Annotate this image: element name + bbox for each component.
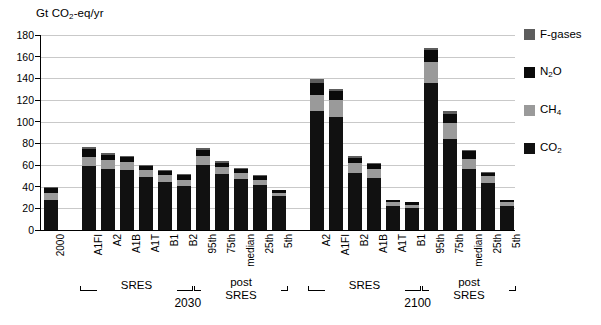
y-tick-label: 20 [10,202,34,214]
bar-segment-co2 [424,83,439,230]
bar-segment-co2 [196,165,211,230]
bar-sres-2100-b1[interactable] [405,202,420,230]
x-axis-label-2000: 2000 [55,234,66,256]
bracket-label-line: post [431,276,507,289]
x-axis-label-median: median [473,234,484,267]
legend-item-fgas[interactable]: F-gases [524,28,601,40]
y-tick-label: 180 [10,29,34,41]
bar-segment-co2 [139,177,154,230]
bar-segment-ch4 [348,163,363,173]
bar-post-sres-2100-75th[interactable] [443,111,458,230]
x-axis-label-25th: 25th [264,234,275,253]
x-axis-label-95th: 95th [435,234,446,253]
x-axis-label-a2: A2 [321,234,332,246]
bar-segment-ch4 [196,156,211,165]
y-tick-label: 80 [10,137,34,149]
bar-segment-n2o [82,149,97,157]
bar-sres-2100-a1t[interactable] [386,200,401,230]
bar-sres-2030-b2[interactable] [177,174,192,230]
bar-post-sres-2030-median[interactable] [234,168,249,230]
bar-sres-2030-a1b[interactable] [120,156,135,230]
bar-segment-co2 [500,206,515,230]
bar-segment-n2o [424,50,439,62]
bar-segment-co2 [44,200,59,230]
bar-segment-ch4 [481,176,496,183]
bar-sres-2030-a2[interactable] [101,153,116,230]
bar-segment-co2 [253,185,268,230]
x-axis-label-a1b: A1B [378,234,389,253]
y-tick-label: 40 [10,181,34,193]
x-axis-label-95th: 95th [207,234,218,253]
bar-post-sres-2100-95th[interactable] [424,48,439,230]
bar-segment-ch4 [424,62,439,83]
legend-item-co2[interactable]: CO2 [524,142,601,154]
bar-sres-2100-a1fi[interactable] [329,89,344,230]
bar-segment-co2 [367,178,382,230]
bracket-label-post-sres-2100: postSRES [429,276,509,302]
x-axis-label-5th: 5th [511,234,522,248]
bar-sres-2100-a2[interactable] [310,79,325,230]
bar-segment-ch4 [310,95,325,111]
bar-baseline-2000[interactable] [44,187,59,230]
y-tick-label: 100 [10,116,34,128]
bar-segment-ch4 [44,193,59,200]
bar-segment-ch4 [443,123,458,139]
legend-item-n2o[interactable]: N2O [524,66,601,78]
bar-segment-co2 [329,117,344,230]
bar-segment-co2 [215,174,230,230]
bar-segment-co2 [443,139,458,230]
x-axis-label-b1: B1 [416,234,427,246]
bracket-label-sres-2100: SRES [325,279,405,291]
bar-segment-co2 [177,186,192,230]
legend-label-n2o: N2O [540,65,562,79]
bar-segment-co2 [82,166,97,230]
bar-segment-n2o [329,91,344,100]
bar-sres-2100-a1b[interactable] [367,163,382,230]
y-tick-label: 160 [10,51,34,63]
legend-swatch-n2o [524,67,535,78]
legend-swatch-co2 [524,143,535,154]
bar-sres-2030-a1t[interactable] [139,165,154,230]
x-axis-label-b2: B2 [188,234,199,246]
bar-post-sres-2030-75th[interactable] [215,161,230,230]
bracket-label-line: SRES [431,289,507,302]
bar-segment-ch4 [101,160,116,169]
bar-segment-ch4 [215,167,230,174]
bar-post-sres-2100-25th[interactable] [481,172,496,230]
bar-segment-co2 [386,206,401,230]
legend-label-main: CH [540,103,557,115]
bar-segment-co2 [481,183,496,230]
bar-post-sres-2030-95th[interactable] [196,148,211,230]
bar-segment-co2 [101,169,116,230]
x-axis-label-a1fi: A1FI [340,234,351,255]
bar-segment-ch4 [329,100,344,117]
bar-sres-2030-a1fi[interactable] [82,147,97,230]
bar-segment-ch4 [120,162,135,170]
bar-sres-2030-b1[interactable] [158,170,173,230]
x-axis-label-a2: A2 [112,234,123,246]
y-tick-label: 0 [10,224,34,236]
bar-segment-co2 [348,173,363,230]
legend-label-co2: CO2 [540,141,562,155]
x-axis-label-a1fi: A1FI [93,234,104,255]
legend-label-suffix: O [553,65,562,77]
bar-segment-co2 [120,170,135,230]
legend-label-fgas: F-gases [540,28,582,40]
bar-post-sres-2030-5th[interactable] [272,190,287,230]
bar-segment-co2 [462,169,477,230]
x-axis-label-a1t: A1T [150,234,161,252]
legend-label-sub: 2 [557,146,561,155]
legend-swatch-ch4 [524,105,535,116]
x-axis-label-75th: 75th [454,234,465,253]
era-label-2030: 2030 [170,296,206,310]
bar-post-sres-2100-median[interactable] [462,150,477,230]
bar-segment-co2 [272,196,287,230]
bar-sres-2100-b2[interactable] [348,156,363,230]
bar-segment-co2 [405,208,420,230]
bar-segment-co2 [310,111,325,230]
bar-segment-co2 [234,179,249,230]
legend-item-ch4[interactable]: CH4 [524,104,601,116]
bars-layer [40,35,515,230]
bar-post-sres-2030-25th[interactable] [253,175,268,230]
bar-post-sres-2100-5th[interactable] [500,200,515,230]
